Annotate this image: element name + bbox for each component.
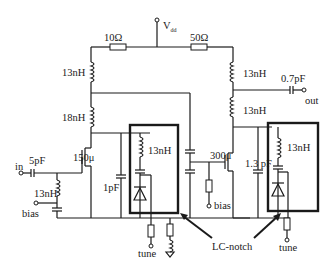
r10-label: 10Ω (104, 32, 123, 43)
in-label: in (15, 161, 24, 172)
c-stage1-label: 1pF (103, 182, 120, 193)
schematic-svg: Vdd 10Ω 50Ω 13nH 18nH 13nH 13nH 0.7pF ou… (0, 0, 332, 273)
m1-label: 150μ (73, 152, 95, 163)
right-drain-branch (230, 47, 306, 127)
out-label: out (305, 95, 319, 106)
resistor-50ohm (191, 44, 207, 50)
circuit-diagram: Vdd 10Ω 50Ω 13nH 18nH 13nH 13nH 0.7pF ou… (0, 0, 332, 273)
bias2-label: bias (214, 200, 231, 211)
lc-notch-2 (268, 123, 318, 242)
r50-label: 50Ω (190, 32, 209, 43)
l-left-top-label: 13nH (62, 67, 86, 78)
vdd-terminal (155, 18, 159, 47)
lc-notch-arrows (180, 213, 281, 238)
l-notch1-label: 13nH (148, 145, 172, 156)
l-right-bot-label: 13nH (243, 105, 267, 116)
lc-notch-label: LC-notch (212, 241, 253, 252)
notch2-box (268, 123, 318, 211)
resistor-10ohm (110, 44, 126, 50)
m2-label: 300μ (210, 150, 232, 161)
top-rail (91, 44, 233, 50)
vdd-label: Vdd (163, 20, 177, 33)
l-left-bot-label: 18nH (62, 112, 86, 123)
l-notch2-label: 13nH (287, 142, 311, 153)
bias1-label: bias (22, 208, 39, 219)
c-in-label: 5pF (29, 155, 46, 166)
tune2-label: tune (279, 242, 297, 253)
tune1-label: tune (138, 248, 156, 259)
c-stage2-label: 1.3 pF (245, 158, 272, 169)
l-input-label: 13nH (34, 188, 58, 199)
c-out-label: 0.7pF (281, 73, 305, 84)
l-right-top-label: 13nH (243, 68, 267, 79)
